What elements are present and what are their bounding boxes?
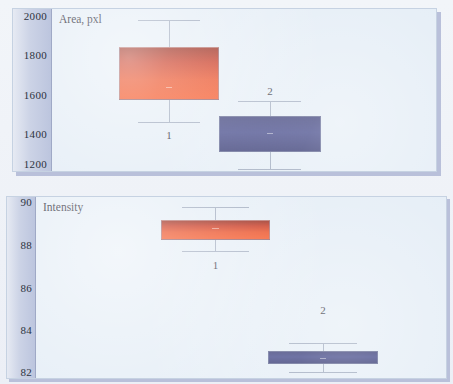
y-tick-label: 84	[20, 324, 32, 336]
y-tick-label: 88	[20, 239, 32, 251]
panel-body: 20001800160014001200 Area, pxl 12	[12, 8, 437, 172]
y-tick-label: 2000	[24, 10, 47, 22]
y-tick-label: 82	[20, 366, 32, 378]
boxplot-group-2: 2	[36, 197, 446, 378]
plot-area-area: Area, pxl 12	[52, 9, 436, 171]
whisker-cap-high	[238, 101, 301, 102]
y-tick-label: 1600	[24, 89, 47, 101]
boxplot-label-2: 2	[267, 85, 273, 97]
median-marker	[267, 133, 273, 134]
y-axis-intensity: 9088868482	[7, 197, 36, 378]
median-marker	[320, 358, 327, 359]
y-axis-area: 20001800160014001200	[13, 9, 52, 171]
y-tick-label: 86	[20, 282, 32, 294]
whisker-cap-low	[289, 372, 358, 373]
y-tick-label: 1800	[24, 49, 47, 61]
panel-body: 9088868482 Intensity 12	[6, 196, 447, 379]
chart-panel-area: 20001800160014001200 Area, pxl 12	[12, 8, 441, 176]
y-tick-label: 1400	[24, 128, 47, 140]
whisker-cap-high	[289, 343, 358, 344]
y-tick-label: 90	[20, 196, 32, 208]
plot-area-intensity: Intensity 12	[36, 197, 446, 378]
boxplot-label-2: 2	[320, 304, 326, 316]
y-tick-label: 1200	[24, 158, 47, 170]
whisker-cap-low	[238, 169, 301, 170]
figure-canvas: 20001800160014001200 Area, pxl 12 908886…	[0, 0, 453, 384]
boxplot-group-2: 2	[52, 9, 436, 171]
chart-panel-intensity: 9088868482 Intensity 12	[6, 196, 450, 382]
